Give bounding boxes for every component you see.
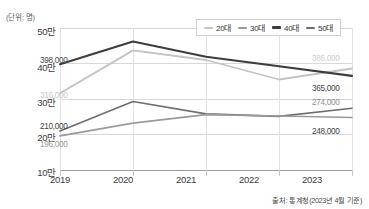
- value-label-30dae-2019: 196,000: [40, 140, 68, 149]
- legend-label-20dae: 20대: [216, 22, 231, 33]
- value-label-40dae-2023: 365,000: [312, 84, 340, 93]
- x-axis-label-2021: 2021: [163, 174, 209, 185]
- legend-swatch-50dae: [306, 27, 315, 29]
- legend-label-30dae: 30대: [250, 22, 265, 33]
- x-tick-2019: [60, 170, 61, 176]
- source-note: 출처: 통계청(2023년 4월 기준): [272, 195, 362, 205]
- series-line-40dae: [60, 42, 352, 76]
- legend: 20대 30대 40대 50대: [196, 19, 341, 36]
- legend-swatch-20dae: [204, 27, 213, 29]
- x-tick-2022: [279, 170, 280, 176]
- x-axis-label-2023: 2023: [289, 174, 335, 185]
- x-tick-2023: [352, 170, 353, 176]
- value-label-30dae-2023: 248,000: [312, 127, 340, 136]
- x-tick-2020: [133, 170, 134, 176]
- legend-swatch-30dae: [238, 27, 247, 29]
- x-axis-label-2020: 2020: [100, 174, 146, 185]
- x-axis-label-2022: 2022: [226, 174, 272, 185]
- legend-label-50dae: 50대: [318, 22, 333, 33]
- legend-item-50dae[interactable]: 50대: [306, 22, 333, 33]
- legend-label-40dae: 40대: [284, 22, 299, 33]
- plot-area: [60, 28, 352, 170]
- y-axis-label-500000: 50만: [37, 24, 56, 38]
- value-label-50dae-2023: 274,000: [312, 98, 340, 107]
- unit-label: (단위: 명): [6, 11, 35, 22]
- value-label-20dae-2019: 316,000: [40, 91, 68, 100]
- legend-item-20dae[interactable]: 20대: [204, 22, 231, 33]
- legend-swatch-40dae: [272, 26, 281, 29]
- series-line-30dae: [60, 115, 352, 136]
- x-tick-2021: [206, 170, 207, 176]
- value-label-20dae-2023: 386,000: [312, 54, 340, 63]
- value-label-40dae-2019: 398,000: [40, 56, 68, 65]
- value-label-50dae-2019: 210,000: [40, 122, 68, 131]
- legend-item-40dae[interactable]: 40대: [272, 22, 299, 33]
- line-chart: (단위: 명) 50만 40만 30만 20만 10만 2019 2020 20…: [0, 0, 369, 209]
- vertical-gridline-2023: [352, 28, 353, 170]
- series-lines: [60, 28, 352, 170]
- legend-item-30dae[interactable]: 30대: [238, 22, 265, 33]
